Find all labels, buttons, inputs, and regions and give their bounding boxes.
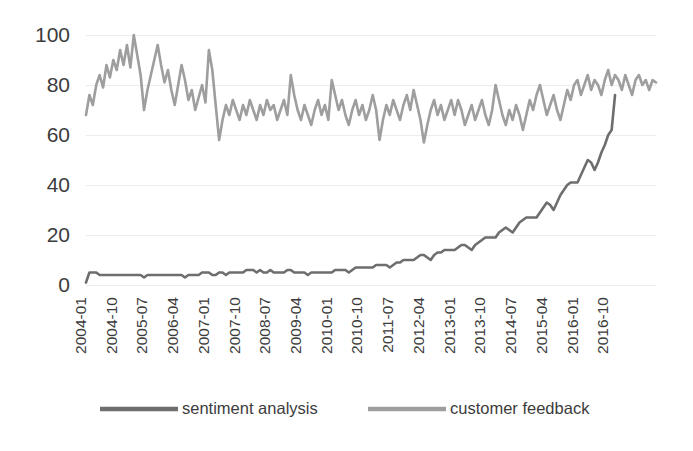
legend-label-sentiment-analysis: sentiment analysis bbox=[182, 399, 318, 417]
y-tick-label-40: 40 bbox=[47, 173, 70, 196]
x-tick-label-2014-07: 2014-07 bbox=[502, 297, 519, 354]
y-tick-label-0: 0 bbox=[58, 273, 70, 296]
x-axis-tick-labels: 2004-012004-102005-072006-042007-012007-… bbox=[72, 297, 611, 354]
x-tick-label-2010-01: 2010-01 bbox=[318, 297, 335, 354]
x-tick-label-2007-10: 2007-10 bbox=[226, 297, 243, 354]
x-tick-label-2007-01: 2007-01 bbox=[195, 297, 212, 354]
line-chart: 020406080100 2004-012004-102005-072006-0… bbox=[0, 0, 693, 451]
y-axis-tick-labels: 020406080100 bbox=[35, 23, 70, 296]
x-tick-label-2016-01: 2016-01 bbox=[564, 297, 581, 354]
x-tick-label-2009-04: 2009-04 bbox=[287, 297, 304, 354]
y-tick-label-20: 20 bbox=[47, 223, 70, 246]
x-tick-label-2015-04: 2015-04 bbox=[533, 297, 550, 354]
x-tick-label-2004-01: 2004-01 bbox=[72, 297, 89, 354]
x-tick-label-2008-07: 2008-07 bbox=[256, 297, 273, 354]
x-tick-label-2010-10: 2010-10 bbox=[348, 297, 365, 354]
x-tick-label-2005-07: 2005-07 bbox=[133, 297, 150, 354]
y-tick-label-80: 80 bbox=[47, 73, 70, 96]
series-line-customer-feedback bbox=[86, 35, 656, 143]
y-tick-label-60: 60 bbox=[47, 123, 70, 146]
x-tick-label-2011-07: 2011-07 bbox=[379, 297, 396, 353]
x-tick-label-2012-04: 2012-04 bbox=[410, 297, 427, 354]
x-tick-label-2006-04: 2006-04 bbox=[164, 297, 181, 354]
x-tick-label-2016-10: 2016-10 bbox=[594, 297, 611, 354]
legend-label-customer-feedback: customer feedback bbox=[450, 399, 590, 417]
series-lines bbox=[86, 35, 656, 283]
x-tick-label-2013-10: 2013-10 bbox=[471, 297, 488, 354]
x-tick-label-2004-10: 2004-10 bbox=[103, 297, 120, 354]
chart-container: 020406080100 2004-012004-102005-072006-0… bbox=[0, 0, 693, 451]
y-tick-label-100: 100 bbox=[35, 23, 70, 46]
gridlines bbox=[86, 36, 656, 286]
x-tick-label-2013-01: 2013-01 bbox=[441, 297, 458, 354]
chart-legend: sentiment analysiscustomer feedback bbox=[100, 399, 590, 417]
